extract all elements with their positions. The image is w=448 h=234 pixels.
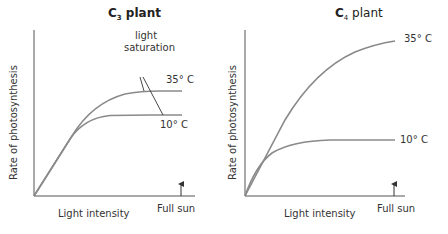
c3-saturation-pointer-35c — [140, 77, 144, 91]
c3-series-35c-label: 35° C — [166, 74, 194, 85]
c3-full-sun-label: Full sun — [157, 203, 195, 214]
c3-series-10c-label: 10° C — [160, 119, 188, 130]
c3-x-axis-label: Light intensity — [58, 208, 130, 219]
c4-series-35c-label: 35° C — [404, 33, 432, 44]
c3-title: C3 plant — [108, 6, 161, 22]
c3-saturation-pointer-10c — [143, 77, 163, 115]
c4-title-rest: plant — [348, 6, 382, 20]
c4-series-10c-label: 10° C — [400, 134, 428, 145]
c3-annotation-line2: saturation — [124, 42, 168, 54]
c3-title-rest: plant — [122, 6, 161, 20]
c4-curve-10c — [245, 140, 395, 196]
c4-x-axis-label: Light intensity — [284, 208, 356, 219]
c4-title: C4 plant — [335, 6, 383, 22]
diagram-canvas — [0, 0, 448, 234]
c3-title-main: C — [108, 6, 117, 20]
c4-curve-35c — [245, 41, 395, 196]
c3-chart — [34, 30, 195, 196]
c4-y-axis-label: Rate of photosynthesis — [227, 65, 238, 180]
c3-light-saturation-label: light saturation — [124, 30, 168, 54]
c4-title-main: C — [335, 6, 344, 20]
c3-y-axis-label: Rate of photosynthesis — [8, 65, 19, 180]
c4-chart — [245, 30, 405, 196]
c4-full-sun-label: Full sun — [377, 203, 415, 214]
c3-annotation-line1: light — [124, 30, 168, 42]
c3-curve-35c — [34, 91, 182, 196]
